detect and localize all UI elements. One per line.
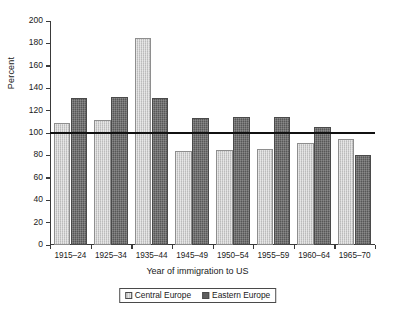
y-tick-label: 0 xyxy=(38,239,43,249)
bar-eastern-europe xyxy=(355,155,372,245)
y-tick-label: 160 xyxy=(29,60,43,70)
bar-central-europe xyxy=(175,151,192,245)
x-tick-mark xyxy=(131,245,132,249)
bar-central-europe xyxy=(94,120,111,245)
x-tick-mark xyxy=(253,245,254,249)
x-axis-title: Year of immigration to US xyxy=(0,266,395,276)
bar-eastern-europe xyxy=(314,127,331,245)
x-tick-mark xyxy=(213,245,214,249)
legend-item-eastern-europe: Eastern Europe xyxy=(202,290,270,300)
legend-label-central-europe: Central Europe xyxy=(135,290,191,300)
bar-central-europe xyxy=(54,123,71,245)
x-tick-label: 1955–59 xyxy=(258,251,290,260)
y-tick-label: 60 xyxy=(34,172,43,182)
x-tick-label: 1925–34 xyxy=(95,251,127,260)
x-tick-label: 1915–24 xyxy=(54,251,86,260)
chart-legend: Central Europe Eastern Europe xyxy=(119,288,277,303)
y-tick-label: 40 xyxy=(34,194,43,204)
y-tick-label: 100 xyxy=(29,127,43,137)
y-tick-label: 140 xyxy=(29,82,43,92)
bar-central-europe xyxy=(338,139,355,245)
x-tick-label: 1965–70 xyxy=(339,251,371,260)
reference-line-100 xyxy=(50,132,375,134)
bar-eastern-europe xyxy=(192,118,209,245)
y-axis-title: Percent xyxy=(6,38,16,108)
bar-chart: Percent 020406080100120140160180200 1915… xyxy=(0,0,395,318)
bar-central-europe xyxy=(257,149,274,245)
x-tick-label: 1935–44 xyxy=(136,251,168,260)
y-tick-label: 200 xyxy=(29,15,43,25)
x-tick-mark xyxy=(91,245,92,249)
x-tick-mark xyxy=(334,245,335,249)
bar-central-europe xyxy=(216,150,233,245)
legend-item-central-europe: Central Europe xyxy=(125,290,191,300)
legend-label-eastern-europe: Eastern Europe xyxy=(212,290,270,300)
x-tick-mark xyxy=(375,245,376,249)
x-tick-label: 1960–64 xyxy=(298,251,330,260)
y-tick-label: 120 xyxy=(29,105,43,115)
bar-eastern-europe xyxy=(71,98,88,245)
x-tick-mark xyxy=(294,245,295,249)
bar-eastern-europe xyxy=(274,117,291,245)
y-tick-label: 20 xyxy=(34,217,43,227)
legend-swatch-central-europe xyxy=(125,292,132,299)
bar-central-europe xyxy=(135,38,152,245)
legend-swatch-eastern-europe xyxy=(202,292,209,299)
x-tick-mark xyxy=(172,245,173,249)
bar-eastern-europe xyxy=(111,97,128,245)
y-tick-label: 80 xyxy=(34,149,43,159)
x-tick-mark xyxy=(50,245,51,249)
bar-eastern-europe xyxy=(152,98,169,245)
x-tick-label: 1950–54 xyxy=(217,251,249,260)
y-tick-label: 180 xyxy=(29,37,43,47)
x-tick-label: 1945–49 xyxy=(176,251,208,260)
bar-eastern-europe xyxy=(233,117,250,245)
bar-central-europe xyxy=(297,143,314,245)
